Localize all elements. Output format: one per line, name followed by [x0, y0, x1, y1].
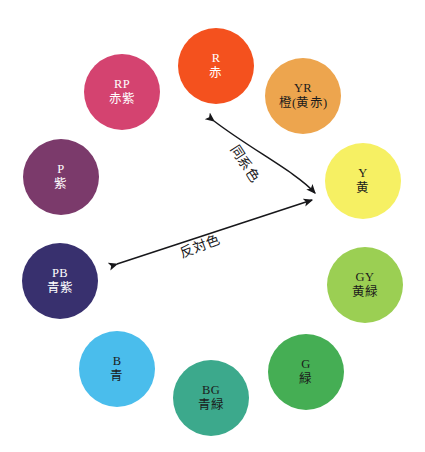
analogous-arrow-label: 同系色	[226, 140, 266, 186]
swatch-code-p: P	[57, 162, 64, 177]
swatch-code-pb: PB	[52, 266, 68, 281]
color-swatch-p[interactable]: P 紫	[23, 139, 99, 215]
color-swatch-gy[interactable]: GY 黄緑	[327, 247, 403, 323]
swatch-name-y: 黄	[356, 181, 369, 196]
swatch-name-b: 青	[110, 369, 123, 384]
swatch-name-gy: 黄緑	[352, 285, 379, 300]
complementary-arrow-label: 反対色	[176, 228, 222, 261]
swatch-name-bg: 青緑	[198, 398, 225, 413]
color-swatch-g[interactable]: G 緑	[268, 334, 344, 410]
color-swatch-r[interactable]: R 赤	[178, 28, 254, 104]
swatch-code-y: Y	[358, 166, 367, 181]
color-swatch-bg[interactable]: BG 青緑	[173, 360, 249, 436]
swatch-code-b: B	[113, 354, 122, 369]
swatch-name-rp: 赤紫	[109, 92, 136, 107]
color-swatch-rp[interactable]: RP 赤紫	[84, 54, 160, 130]
swatch-code-yr: YR	[294, 81, 312, 96]
swatch-name-g: 緑	[299, 372, 312, 387]
swatch-name-p: 紫	[54, 177, 67, 192]
swatch-code-gy: GY	[356, 270, 375, 285]
swatch-code-r: R	[212, 51, 221, 66]
swatch-name-r: 赤	[209, 66, 222, 81]
swatch-code-rp: RP	[114, 77, 130, 92]
color-swatch-pb[interactable]: PB 青紫	[22, 243, 98, 319]
color-swatch-yr[interactable]: YR 橙(黄赤)	[265, 58, 341, 134]
swatch-name-yr: 橙(黄赤)	[279, 96, 328, 111]
color-swatch-b[interactable]: B 青	[79, 331, 155, 407]
swatch-code-bg: BG	[202, 383, 220, 398]
color-wheel-diagram: R 赤 YR 橙(黄赤) Y 黄 GY 黄緑 G 緑 BG 青緑 B 青 PB …	[0, 0, 425, 452]
swatch-code-g: G	[301, 357, 310, 372]
color-swatch-y[interactable]: Y 黄	[325, 143, 401, 219]
swatch-name-pb: 青紫	[47, 281, 74, 296]
